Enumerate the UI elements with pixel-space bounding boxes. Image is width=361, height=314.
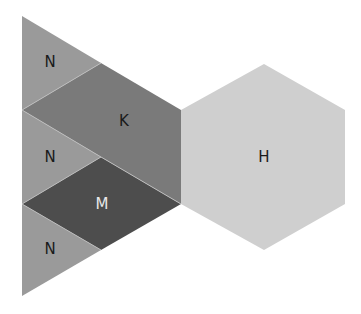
label-n-bottom: N xyxy=(44,240,55,258)
label-k: K xyxy=(119,112,130,130)
label-n-mid: N xyxy=(44,148,55,166)
label-h: H xyxy=(258,148,269,166)
label-m: M xyxy=(96,195,109,213)
shape-diagram: N K N M N H xyxy=(0,0,361,314)
label-n-top: N xyxy=(44,53,55,71)
